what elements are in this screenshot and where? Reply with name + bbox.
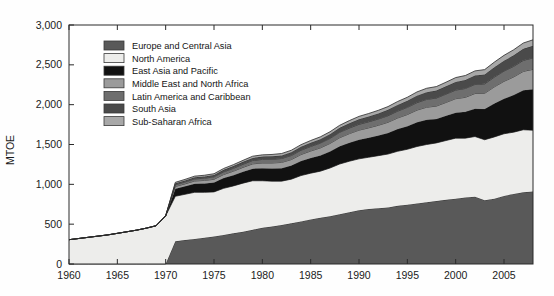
x-tick-label: 1980 [251,269,275,281]
stacked-area-chart: 05001,0001,5002,0002,5003,000 1960196519… [0,0,554,296]
legend-label-3: Middle East and North Africa [132,79,249,89]
y-axis-title-text: MTOE [4,135,16,165]
legend-label-0: Europe and Central Asia [132,41,232,51]
y-tick-label: 2,000 [36,98,62,110]
legend-swatch-1 [104,54,124,63]
y-tick-label: 2,500 [36,58,62,70]
legend-label-1: North America [132,54,191,64]
x-tick-label: 2000 [444,269,468,281]
x-tick-label: 2005 [492,269,516,281]
x-tick-label: 1965 [106,269,130,281]
y-tick-label: 1,500 [36,138,62,150]
y-tick-label: 0 [56,258,62,270]
x-tick-label: 1995 [396,269,420,281]
legend-swatch-3 [104,79,124,88]
legend-label-4: Latin America and Caribbean [132,92,251,102]
legend-label-5: South Asia [132,104,177,114]
legend-label-6: Sub-Saharan Africa [132,117,213,127]
x-tick-label: 1975 [202,269,226,281]
chart-figure: 05001,0001,5002,0002,5003,000 1960196519… [0,0,554,296]
legend-swatch-6 [104,117,124,126]
x-tick-label: 1985 [299,269,323,281]
y-axis-title: MTOE [4,135,16,165]
x-tick-label: 1960 [57,269,81,281]
legend-swatch-2 [104,66,124,75]
legend-swatch-0 [104,41,124,50]
legend-label-2: East Asia and Pacific [132,66,218,76]
y-tick-label: 500 [44,218,62,230]
y-tick-label: 1,000 [36,178,62,190]
y-tick-label: 3,000 [36,19,62,31]
x-tick-label: 1990 [347,269,371,281]
legend-swatch-4 [104,91,124,100]
legend-swatch-5 [104,104,124,113]
x-tick-label: 1970 [154,269,178,281]
